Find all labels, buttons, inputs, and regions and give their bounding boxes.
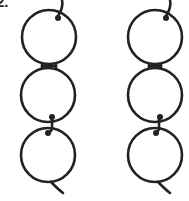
ring-chains-diagram [0,0,189,201]
left-ring-1 [22,10,76,64]
left-ring-2 [21,68,75,122]
right-ring-2 [128,68,182,122]
right-knot-dot-1 [163,15,169,21]
right-knot-dot-2 [157,114,163,120]
left-knot-dot-2 [49,114,55,120]
right-ring-1 [128,10,182,64]
right-bottom-thread-icon [158,182,170,193]
right-chain [128,0,182,193]
right-ring-3 [128,128,182,182]
left-chain [21,0,76,193]
left-ring-3 [21,128,75,182]
right-knot-dot-3 [153,130,159,136]
left-bottom-thread-icon [51,182,63,193]
left-knot-dot-1 [55,15,61,21]
left-knot-dot-3 [45,130,51,136]
